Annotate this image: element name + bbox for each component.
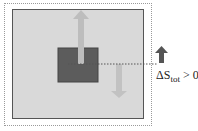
diagram-graphics [0,0,198,131]
down-arrow-icon [111,64,127,98]
entropy-up-arrow-icon [155,46,168,63]
entropy-label: ΔStot > 0 [156,68,198,84]
